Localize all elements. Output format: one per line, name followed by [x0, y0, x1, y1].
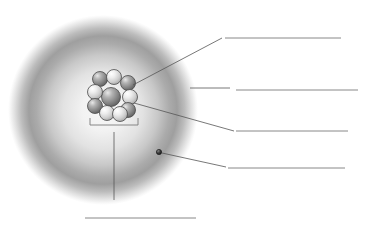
nucleus-particle-neutron: [107, 70, 122, 85]
nucleus-particle-proton: [102, 88, 121, 107]
nucleus: [88, 70, 138, 122]
atom-diagram-canvas: [0, 0, 367, 230]
atom-diagram-svg: [0, 0, 367, 230]
nucleus-particle-neutron: [88, 85, 103, 100]
nucleus-particle-neutron: [123, 90, 138, 105]
electron: [156, 149, 161, 154]
nucleus-particle-proton: [121, 76, 136, 91]
nucleus-particle-neutron: [113, 107, 128, 122]
